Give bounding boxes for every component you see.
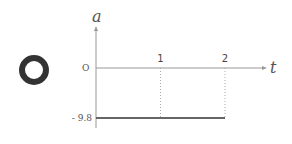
origin-label: O: [82, 63, 89, 73]
y-tick-label: - 9.8: [72, 113, 92, 123]
x-axis-arrow: [262, 66, 267, 70]
ring-icon: [22, 58, 46, 82]
x-tick-label: 2: [222, 53, 228, 64]
x-axis-label: t: [270, 58, 277, 77]
y-axis-label: a: [92, 7, 102, 26]
y-axis-arrow: [94, 26, 98, 31]
chart: atO12- 9.8: [0, 0, 292, 144]
x-tick-label: 1: [157, 53, 163, 64]
